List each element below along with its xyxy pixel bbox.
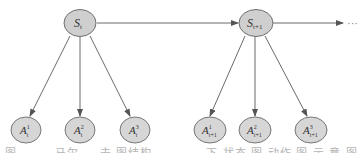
continuation-ellipsis: ··· (347, 17, 358, 29)
action-node-at1-2: A2t+1 (239, 117, 271, 143)
action-edge-st1-1 (210, 36, 245, 116)
action-node-at1-3: A3t+1 (295, 117, 327, 143)
action-subscript: t+1 (254, 132, 262, 138)
action-subscript: t+1 (310, 132, 318, 138)
action-superscript: 3 (310, 124, 313, 130)
state-subscript: t+1 (253, 23, 263, 31)
figure-caption: 图 — — 马尔 — 夫 图结构 — — — 下 状态 图 动作 图 示 意 图 (0, 144, 363, 153)
action-node-at-1: A1t (11, 117, 41, 143)
state-node-st1: St+1 (239, 10, 273, 37)
action-edge-st-1 (30, 36, 70, 116)
action-edge-st-3 (90, 36, 130, 116)
action-superscript: 1 (209, 124, 212, 130)
action-superscript: 3 (136, 124, 139, 130)
action-superscript: 2 (81, 124, 84, 130)
action-superscript: 2 (254, 124, 257, 130)
state-node-st: St (64, 10, 96, 37)
action-node-at1-1: A1t+1 (194, 117, 226, 143)
state-action-diagram: ··· St St+1 A1t A2t A3t A1t+1 A2t+1 A3t+… (0, 0, 363, 153)
action-node-at-3: A3t (120, 117, 150, 143)
state-subscript: t (80, 23, 82, 31)
action-superscript: 1 (27, 124, 30, 130)
action-subscript: t+1 (209, 132, 217, 138)
action-node-at-2: A2t (65, 117, 95, 143)
action-edge-st1-3 (265, 36, 307, 116)
